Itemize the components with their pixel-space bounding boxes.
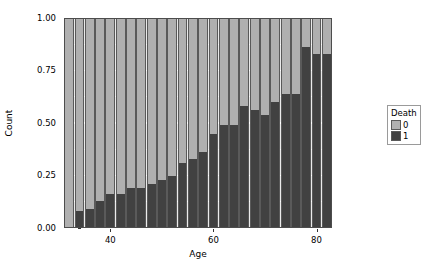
legend: Death 01 xyxy=(387,105,421,145)
legend-items: 01 xyxy=(391,119,417,141)
x-axis-tick-mark xyxy=(213,229,214,232)
legend-item-label: 1 xyxy=(403,131,408,141)
legend-item-label: 0 xyxy=(403,120,408,130)
legend-color-swatch xyxy=(391,131,401,141)
x-axis-tick-mark xyxy=(110,229,111,232)
x-axis-title: Age xyxy=(64,249,332,260)
x-axis-tick-mark xyxy=(317,229,318,232)
x-axis-tick-label: 40 xyxy=(95,235,125,245)
legend-color-swatch xyxy=(391,120,401,130)
legend-item: 1 xyxy=(391,130,417,141)
legend-title: Death xyxy=(391,108,417,118)
legend-item: 0 xyxy=(391,119,417,130)
chart-figure: Count 0.000.250.500.751.00 406080 Age De… xyxy=(0,0,436,276)
x-axis-tick-label: 80 xyxy=(302,235,332,245)
x-axis-tick-labels: 406080 xyxy=(0,0,436,276)
x-axis-tick-label: 60 xyxy=(198,235,228,245)
